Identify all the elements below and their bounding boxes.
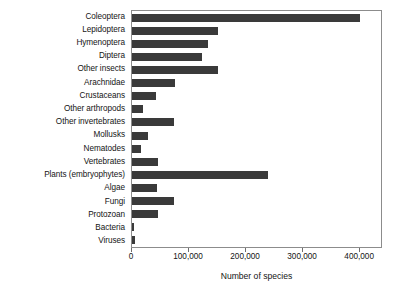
- category-label: Mollusks: [0, 129, 128, 142]
- category-label: Other arthropods: [0, 103, 128, 116]
- category-label: Fungi: [0, 195, 128, 208]
- bar: [132, 79, 175, 87]
- bar-row: [132, 37, 381, 50]
- x-tick-label: 100,000: [173, 253, 203, 261]
- category-label: Coleoptera: [0, 10, 128, 23]
- bar: [132, 132, 148, 140]
- bar-row: [132, 168, 381, 181]
- bar: [132, 40, 208, 48]
- bar-chart-figure: ColeopteraLepidopteraHymenopteraDipteraO…: [0, 0, 406, 297]
- x-tick-label: 400,000: [344, 253, 374, 261]
- bar-row: [132, 195, 381, 208]
- bar-row: [132, 11, 381, 24]
- category-label: Other insects: [0, 63, 128, 76]
- bar-row: [132, 234, 381, 247]
- bar-series: [132, 11, 381, 247]
- bar: [132, 53, 202, 61]
- category-label-column: ColeopteraLepidopteraHymenopteraDipteraO…: [0, 10, 128, 248]
- bar-row: [132, 77, 381, 90]
- bar: [132, 105, 143, 113]
- bar-row: [132, 90, 381, 103]
- category-label: Diptera: [0, 50, 128, 63]
- plot-area: [131, 10, 382, 248]
- bar-row: [132, 155, 381, 168]
- x-axis-title: Number of species: [131, 271, 382, 281]
- bar: [132, 171, 268, 179]
- category-label: Crustaceans: [0, 89, 128, 102]
- bar-row: [132, 63, 381, 76]
- category-label: Arachnidae: [0, 76, 128, 89]
- bar: [132, 236, 135, 244]
- category-label: Lepidoptera: [0, 23, 128, 36]
- bar: [132, 210, 158, 218]
- bar-row: [132, 221, 381, 234]
- bar: [132, 184, 157, 192]
- bar-row: [132, 50, 381, 63]
- bar: [132, 197, 174, 205]
- bar-row: [132, 181, 381, 194]
- category-label: Viruses: [0, 235, 128, 248]
- bar: [132, 118, 174, 126]
- bar-row: [132, 103, 381, 116]
- bar: [132, 145, 141, 153]
- bar: [132, 158, 158, 166]
- category-label: Other invertebrates: [0, 116, 128, 129]
- bar: [132, 27, 218, 35]
- bar: [132, 66, 218, 74]
- category-label: Plants (embryophytes): [0, 169, 128, 182]
- bar-row: [132, 24, 381, 37]
- bar: [132, 92, 156, 100]
- category-label: Hymenoptera: [0, 36, 128, 49]
- category-label: Algae: [0, 182, 128, 195]
- x-tick-label: 0: [129, 253, 134, 261]
- x-tick-label: 300,000: [287, 253, 317, 261]
- category-label: Nematodes: [0, 142, 128, 155]
- category-label: Vertebrates: [0, 155, 128, 168]
- bar-row: [132, 142, 381, 155]
- bar-row: [132, 208, 381, 221]
- category-label: Bacteria: [0, 222, 128, 235]
- x-tick-label: 200,000: [230, 253, 260, 261]
- bar: [132, 14, 360, 22]
- category-label: Protozoan: [0, 208, 128, 221]
- bar-row: [132, 116, 381, 129]
- bar-row: [132, 129, 381, 142]
- bar: [132, 223, 134, 231]
